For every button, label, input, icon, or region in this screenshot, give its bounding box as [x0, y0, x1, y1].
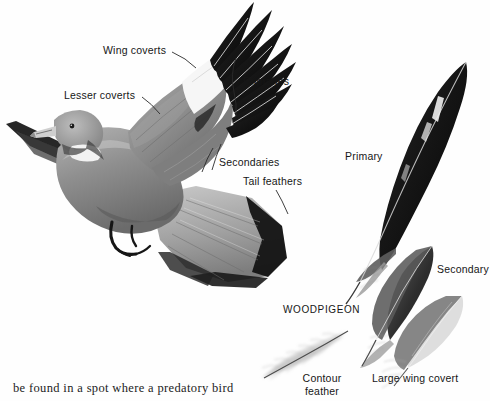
- subject-caption-woodpigeon: WOODPIGEON: [283, 304, 360, 316]
- leader-tail-feathers: [276, 190, 288, 214]
- page-body-text: be found in a spot where a predatory bir…: [13, 381, 234, 396]
- callout-label-wing-coverts: Wing coverts: [103, 44, 166, 56]
- callout-label-primaries: Primaries: [243, 75, 289, 87]
- callout-label-secondaries: Secondaries: [219, 156, 280, 168]
- callout-label-lesser-coverts: Lesser coverts: [64, 89, 135, 101]
- bird-feather-illustration: [0, 0, 490, 401]
- illustration-page: Wing coverts Lesser coverts Primaries Se…: [0, 0, 490, 401]
- specimen-label-contour-feather: Contour feather: [294, 372, 350, 397]
- callout-label-tail-feathers: Tail feathers: [243, 175, 302, 187]
- specimen-label-large-wing-covert: Large wing covert: [372, 372, 458, 384]
- leader-wing-coverts: [172, 52, 196, 68]
- contour-feather-rachis: [264, 331, 348, 378]
- specimen-label-secondary: Secondary: [437, 263, 489, 275]
- specimen-label-primary: Primary: [345, 150, 383, 162]
